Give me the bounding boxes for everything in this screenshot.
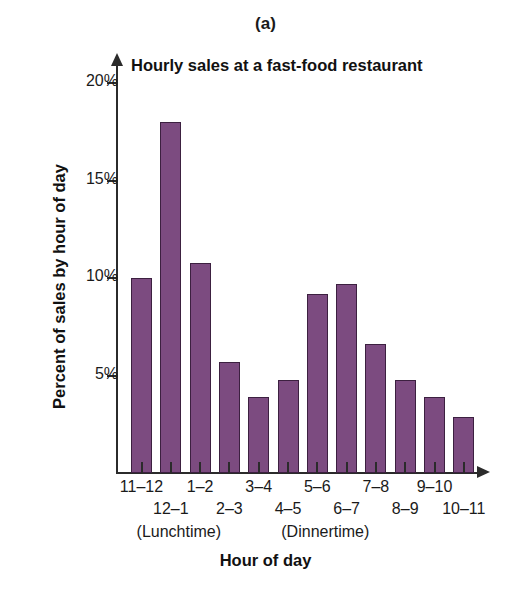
bar [160, 122, 181, 473]
x-tick-label: 9–10 [417, 478, 453, 496]
bar [131, 278, 152, 473]
x-tick-mark [287, 462, 289, 473]
plot-area [118, 64, 479, 473]
x-axis-label: Hour of day [0, 551, 531, 570]
x-tick-label: 7–8 [363, 478, 390, 496]
x-tick-label: 11–12 [120, 478, 163, 496]
y-tick-label: 20% [56, 72, 118, 90]
x-tick-mark [170, 462, 172, 473]
x-tick-mark [199, 462, 201, 473]
x-tick-mark [141, 462, 143, 473]
x-tick-label: 8–9 [392, 500, 419, 518]
bar [278, 380, 299, 473]
y-tick-label: 15% [56, 170, 118, 188]
x-tick-label: 4–5 [275, 500, 302, 518]
x-tick-mark [404, 462, 406, 473]
bar [219, 362, 240, 473]
y-tick-label: 5% [56, 365, 118, 383]
x-tick-mark [463, 462, 465, 473]
panel-letter: (a) [0, 14, 531, 34]
x-tick-mark [316, 462, 318, 473]
x-tick-mark [375, 462, 377, 473]
x-tick-label: 5–6 [304, 478, 331, 496]
bar [365, 344, 386, 473]
group-note: (Dinnertime) [281, 523, 369, 541]
bar [307, 294, 328, 473]
bar [190, 263, 211, 473]
x-tick-mark [346, 462, 348, 473]
x-tick-mark [258, 462, 260, 473]
x-tick-mark [434, 462, 436, 473]
x-tick-label: 2–3 [216, 500, 243, 518]
group-note: (Lunchtime) [137, 523, 221, 541]
x-tick-label: 6–7 [333, 500, 360, 518]
x-tick-label: 12–1 [153, 500, 189, 518]
x-tick-label: 1–2 [187, 478, 214, 496]
figure-panel: (a) Hourly sales at a fast-food restaura… [0, 0, 531, 601]
x-tick-label: 10–11 [442, 500, 485, 518]
x-tick-label: 3–4 [245, 478, 272, 496]
bar [395, 380, 416, 473]
y-tick-label: 10% [56, 267, 118, 285]
bar [336, 284, 357, 473]
x-tick-mark [228, 462, 230, 473]
